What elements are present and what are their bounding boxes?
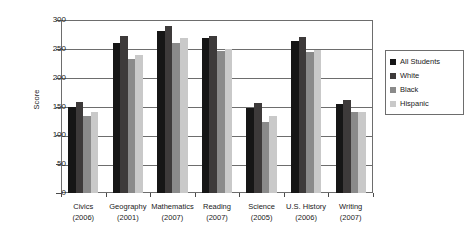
legend-item: Black: [390, 83, 460, 96]
bar: [351, 112, 359, 193]
bar: [76, 102, 84, 193]
legend: All StudentsWhiteBlackHispanic: [385, 50, 464, 115]
bar-group: [157, 20, 187, 193]
legend-label: White: [400, 71, 419, 80]
bar: [172, 43, 180, 194]
legend-label: All Students: [400, 57, 440, 66]
bar-group: [291, 20, 321, 193]
bar: [314, 50, 322, 193]
bar: [120, 36, 128, 193]
category-name: U.S. History: [286, 202, 326, 211]
bar: [157, 31, 165, 193]
x-tick-mark: [61, 193, 62, 197]
legend-label: Hispanic: [400, 99, 429, 108]
bar-group: [246, 20, 276, 193]
x-tick-mark: [150, 193, 151, 197]
bar: [180, 38, 188, 193]
category-name: Science: [248, 202, 275, 211]
bar: [135, 55, 143, 193]
bar: [165, 26, 173, 193]
bar: [291, 41, 299, 193]
bar-group: [68, 20, 98, 193]
bar: [202, 38, 210, 193]
bar: [83, 116, 91, 193]
bars-layer: [61, 20, 373, 193]
bar: [246, 108, 254, 193]
legend-swatch-icon: [390, 101, 396, 107]
category-year: (2007): [324, 212, 377, 223]
bar: [358, 112, 366, 193]
bar: [128, 59, 136, 193]
x-tick-mark: [284, 193, 285, 197]
bar-group: [202, 20, 232, 193]
legend-item: Hispanic: [390, 97, 460, 110]
legend-label: Black: [400, 85, 418, 94]
bar: [306, 52, 314, 193]
x-tick-mark: [328, 193, 329, 197]
category-name: Geography: [109, 202, 146, 211]
bar: [254, 103, 262, 193]
bar: [262, 122, 270, 194]
legend-item: White: [390, 69, 460, 82]
category-name: Mathematics: [151, 202, 194, 211]
x-tick-mark: [195, 193, 196, 197]
legend-swatch-icon: [390, 73, 396, 79]
bar: [68, 107, 76, 194]
bar-group: [336, 20, 366, 193]
bar: [91, 112, 99, 193]
bar-chart: Score 050100150200250300 Civics(2006)Geo…: [0, 0, 472, 245]
bar: [299, 37, 307, 193]
legend-item: All Students: [390, 55, 460, 68]
legend-swatch-icon: [390, 59, 396, 65]
bar: [336, 104, 344, 193]
bar: [269, 116, 277, 193]
category-name: Writing: [339, 202, 362, 211]
bar: [343, 100, 351, 193]
x-tick-mark: [373, 193, 374, 197]
bar-group: [113, 20, 143, 193]
category-name: Civics: [73, 202, 93, 211]
legend-swatch-icon: [390, 87, 396, 93]
x-tick-mark: [239, 193, 240, 197]
category-name: Reading: [203, 202, 231, 211]
x-tick-mark: [106, 193, 107, 197]
bar: [225, 49, 233, 193]
bar: [209, 36, 217, 193]
x-axis-category-label: Writing(2007): [324, 201, 377, 223]
bar: [113, 43, 121, 194]
bar: [217, 51, 225, 193]
